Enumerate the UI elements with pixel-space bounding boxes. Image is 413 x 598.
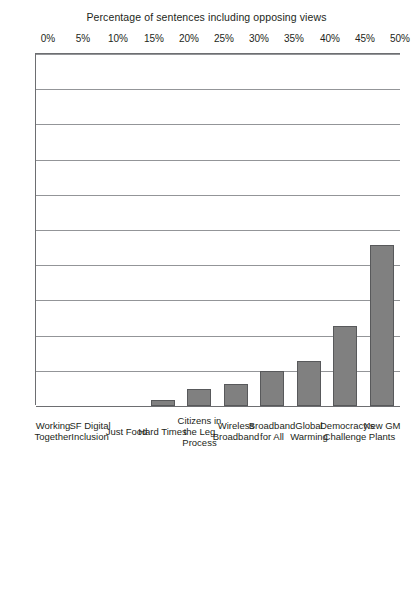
bar <box>333 326 357 406</box>
bar <box>297 361 321 406</box>
axis-tick-label: 35% <box>288 26 300 52</box>
bar <box>260 371 284 406</box>
category-labels: New GM PlantsDemocracy's ChallengeGlobal… <box>35 405 400 457</box>
gridline <box>36 265 400 266</box>
axis-tick-label: 40% <box>324 26 336 52</box>
gridline <box>36 160 400 161</box>
axis-tick-label: 15% <box>148 26 160 52</box>
gridline <box>36 54 400 55</box>
gridline <box>36 300 400 301</box>
gridline <box>36 230 400 231</box>
axis-tick-label: 20% <box>183 26 195 52</box>
axis-tick-labels: 0%5%10%15%20%25%30%35%40%45%50% <box>0 26 413 52</box>
axis-tick-label: 30% <box>253 26 265 52</box>
rotated-figure-stage: Percentage of sentences including opposi… <box>0 0 413 598</box>
category-label: Working Together <box>27 405 79 457</box>
bar <box>370 245 394 406</box>
bar <box>224 384 248 406</box>
axis-tick-label: 25% <box>218 26 230 52</box>
bar-chart-figure: Percentage of sentences including opposi… <box>0 0 413 598</box>
axis-title: Percentage of sentences including opposi… <box>0 6 413 28</box>
gridline <box>36 195 400 196</box>
gridline <box>36 89 400 90</box>
gridline <box>36 124 400 125</box>
axis-tick-label: 0% <box>42 26 54 52</box>
plot-area <box>35 53 400 405</box>
axis-tick-label: 50% <box>394 26 406 52</box>
axis-tick-label: 5% <box>77 26 89 52</box>
bar <box>187 389 211 406</box>
axis-tick-label: 45% <box>359 26 371 52</box>
axis-tick-label: 10% <box>112 26 124 52</box>
